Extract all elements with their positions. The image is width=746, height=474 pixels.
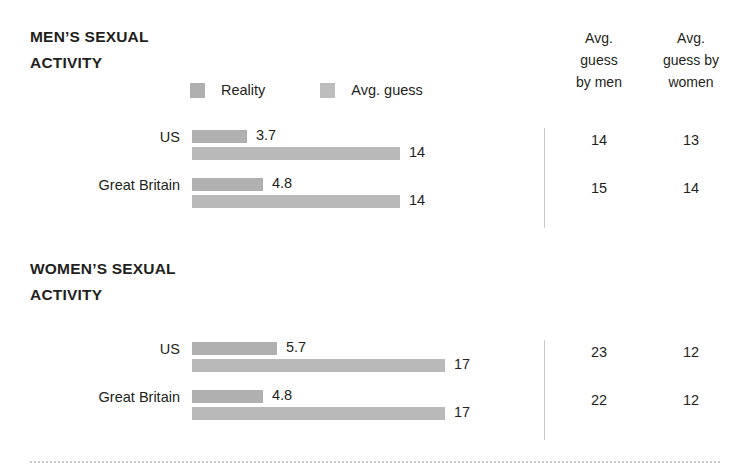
row-label-great-britain: Great Britain — [0, 389, 180, 405]
bar-value-reality: 4.8 — [272, 387, 292, 403]
bar-value-reality: 5.7 — [286, 339, 306, 355]
table-row: US 3.7 14 14 13 — [0, 128, 746, 176]
bar-value-reality: 3.7 — [256, 127, 276, 143]
bar-value-avg-guess: 17 — [454, 356, 470, 372]
bottom-dotted-divider — [30, 461, 720, 463]
legend-label-reality: Reality — [221, 82, 265, 98]
bar-reality — [192, 390, 263, 403]
data-group-mens-sexual-activity: US 3.7 14 14 13 Great Britain 4.8 14 15 … — [0, 128, 746, 224]
table-row: Great Britain 4.8 14 15 14 — [0, 176, 746, 224]
section-title-mens-sexual-activity: MEN’S SEXUAL ACTIVITY — [30, 24, 330, 76]
bar-value-avg-guess: 17 — [454, 404, 470, 420]
cell-avg-guess-by-women: 12 — [648, 392, 734, 408]
bar-avg-guess — [192, 195, 400, 208]
legend-swatch-avg-guess-icon — [320, 83, 335, 98]
legend-item-avg-guess: Avg. guess — [320, 82, 422, 98]
cell-avg-guess-by-women: 12 — [648, 344, 734, 360]
table-row: US 5.7 17 23 12 — [0, 340, 746, 388]
bar-value-avg-guess: 14 — [409, 192, 425, 208]
data-group-womens-sexual-activity: US 5.7 17 23 12 Great Britain 4.8 17 22 … — [0, 340, 746, 436]
column-header-avg-guess-by-men: Avg. guess by men — [556, 27, 642, 93]
cell-avg-guess-by-women: 13 — [648, 132, 734, 148]
legend-swatch-reality-icon — [190, 83, 205, 98]
cell-avg-guess-by-women: 14 — [648, 180, 734, 196]
legend-label-avg-guess: Avg. guess — [351, 82, 422, 98]
bar-reality — [192, 130, 247, 143]
bar-value-avg-guess: 14 — [409, 144, 425, 160]
legend-item-reality: Reality — [190, 82, 265, 98]
table-row: Great Britain 4.8 17 22 12 — [0, 388, 746, 436]
cell-avg-guess-by-men: 23 — [556, 344, 642, 360]
row-label-us: US — [0, 129, 180, 145]
row-label-great-britain: Great Britain — [0, 177, 180, 193]
chart-figure: MEN’S SEXUAL ACTIVITY Reality Avg. guess… — [0, 0, 746, 474]
bar-avg-guess — [192, 359, 445, 372]
bar-avg-guess — [192, 147, 400, 160]
cell-avg-guess-by-men: 14 — [556, 132, 642, 148]
column-header-avg-guess-by-women: Avg. guess by women — [648, 27, 734, 93]
chart-legend: Reality Avg. guess — [190, 81, 423, 99]
row-label-us: US — [0, 341, 180, 357]
section-title-womens-sexual-activity: WOMEN’S SEXUAL ACTIVITY — [30, 256, 330, 308]
cell-avg-guess-by-men: 22 — [556, 392, 642, 408]
bar-reality — [192, 342, 277, 355]
bar-avg-guess — [192, 407, 445, 420]
bar-value-reality: 4.8 — [272, 175, 292, 191]
bar-reality — [192, 178, 263, 191]
cell-avg-guess-by-men: 15 — [556, 180, 642, 196]
